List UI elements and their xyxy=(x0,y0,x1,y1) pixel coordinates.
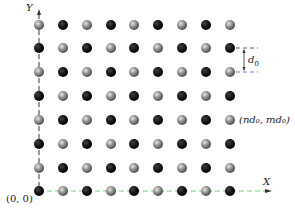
atom-dark xyxy=(82,186,92,196)
spacing-label-sub: 0 xyxy=(254,60,258,68)
atom-light xyxy=(201,91,211,101)
atom-dark xyxy=(58,67,68,77)
atom-dark xyxy=(34,186,44,196)
atom-dark xyxy=(106,20,116,30)
atom-light xyxy=(129,115,139,125)
atom-dark xyxy=(106,115,116,125)
atom-light xyxy=(34,115,44,125)
atom-dark xyxy=(129,186,139,196)
atom-light xyxy=(34,163,44,173)
atom-dark xyxy=(58,115,68,125)
point-label: (nd₀, md₀) xyxy=(239,114,290,125)
atom-dark xyxy=(82,91,92,101)
atom-light xyxy=(201,186,211,196)
atom-light xyxy=(177,115,187,125)
lattice-svg xyxy=(0,0,295,216)
atom-dark xyxy=(201,115,211,125)
atom-light xyxy=(58,139,68,149)
atom-dark xyxy=(153,67,163,77)
y-axis-arrow-icon xyxy=(37,9,41,15)
atom-light xyxy=(82,163,92,173)
atom-dark xyxy=(129,91,139,101)
atom-light xyxy=(153,139,163,149)
atom-light xyxy=(106,186,116,196)
atom-dark xyxy=(106,67,116,77)
atom-light xyxy=(153,43,163,53)
spacing-arrow-down-icon xyxy=(243,67,246,71)
atom-light xyxy=(58,91,68,101)
atom-light xyxy=(201,43,211,53)
atom-dark xyxy=(82,43,92,53)
origin-label: (0, 0) xyxy=(6,193,33,204)
atom-dark xyxy=(82,139,92,149)
atom-dark xyxy=(153,20,163,30)
atom-dark xyxy=(58,163,68,173)
atom-light xyxy=(177,20,187,30)
atom-light xyxy=(58,186,68,196)
spacing-label: d0 xyxy=(248,54,259,68)
atom-light xyxy=(225,67,235,77)
atom-light xyxy=(106,91,116,101)
lattice-diagram: Y X (0, 0) d0 (nd₀, md₀) xyxy=(0,0,295,216)
atom-dark xyxy=(34,43,44,53)
atom-dark xyxy=(201,67,211,77)
spacing-arrow-up-icon xyxy=(243,49,246,53)
atom-light xyxy=(153,91,163,101)
atom-light xyxy=(129,67,139,77)
atom-light xyxy=(201,139,211,149)
x-axis-arrow-icon xyxy=(265,189,272,193)
atom-dark xyxy=(177,91,187,101)
atom-light xyxy=(225,163,235,173)
atom-dark xyxy=(34,91,44,101)
y-axis-label: Y xyxy=(26,2,33,13)
atom-dark xyxy=(58,20,68,30)
atom-light xyxy=(177,163,187,173)
atom-light xyxy=(82,115,92,125)
atom-light xyxy=(34,67,44,77)
atom-dark xyxy=(225,186,235,196)
atom-dark xyxy=(153,163,163,173)
atom-light xyxy=(177,67,187,77)
atom-dark xyxy=(201,163,211,173)
atom-light xyxy=(106,139,116,149)
atom-light xyxy=(82,67,92,77)
atom-light xyxy=(82,20,92,30)
atom-dark xyxy=(201,20,211,30)
atoms-group xyxy=(34,20,235,196)
atom-dark xyxy=(177,139,187,149)
atom-light xyxy=(58,43,68,53)
atom-light xyxy=(225,115,235,125)
atom-dark xyxy=(225,139,235,149)
atom-dark xyxy=(153,115,163,125)
atom-dark xyxy=(177,186,187,196)
atom-light xyxy=(106,43,116,53)
atom-light xyxy=(129,20,139,30)
atom-light xyxy=(225,20,235,30)
atom-dark xyxy=(225,91,235,101)
atom-dark xyxy=(129,139,139,149)
atom-light xyxy=(34,20,44,30)
atom-dark xyxy=(225,43,235,53)
x-axis-label: X xyxy=(263,176,270,187)
atom-dark xyxy=(129,43,139,53)
atom-dark xyxy=(177,43,187,53)
atom-dark xyxy=(106,163,116,173)
atom-light xyxy=(153,186,163,196)
atom-dark xyxy=(34,139,44,149)
atom-light xyxy=(129,163,139,173)
